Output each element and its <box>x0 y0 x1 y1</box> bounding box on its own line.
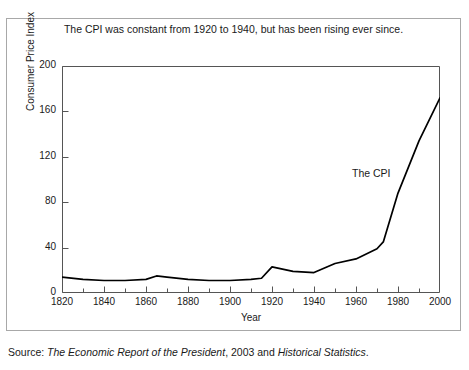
axis-frame <box>63 67 440 293</box>
source-middle: , 2003 and <box>225 346 278 358</box>
y-tick-label: 200 <box>39 59 56 70</box>
x-axis-tick-labels: 1820184018601880190019201940196019802000 <box>62 296 440 310</box>
source-title-secondary: Historical Statistics <box>278 346 366 358</box>
x-tick-label: 1940 <box>303 296 325 307</box>
source-note: Source: The Economic Report of the Presi… <box>8 346 369 358</box>
y-tick-label: 40 <box>45 241 56 252</box>
series-annotation-the-cpi: The CPI <box>352 167 391 179</box>
chart-canvas <box>62 66 440 293</box>
x-tick-label: 1920 <box>261 296 283 307</box>
x-axis-label: Year <box>62 312 440 323</box>
x-tick-label: 1980 <box>387 296 409 307</box>
figure: The CPI was constant from 1920 to 1940, … <box>0 0 469 370</box>
x-tick-label: 1860 <box>135 296 157 307</box>
x-tick-label: 1880 <box>177 296 199 307</box>
data-series-group <box>62 98 440 281</box>
y-axis-tick-labels: 04080120160200 <box>18 66 56 293</box>
x-axis-ticks <box>63 287 441 293</box>
y-tick-label: 160 <box>39 104 56 115</box>
source-prefix: Source: <box>8 346 47 358</box>
x-tick-label: 1840 <box>93 296 115 307</box>
chart-title: The CPI was constant from 1920 to 1940, … <box>6 22 461 36</box>
y-tick-label: 80 <box>45 195 56 206</box>
source-title-primary: The Economic Report of the President <box>47 346 225 358</box>
x-tick-label: 1820 <box>51 296 73 307</box>
x-tick-label: 1900 <box>219 296 241 307</box>
y-tick-label: 120 <box>39 150 56 161</box>
plot-area <box>62 66 440 293</box>
y-axis-ticks <box>63 67 69 294</box>
line-series-the-cpi <box>62 98 440 281</box>
source-suffix: . <box>366 346 369 358</box>
x-tick-label: 2000 <box>429 296 451 307</box>
plot-frame <box>63 67 440 293</box>
x-tick-label: 1960 <box>345 296 367 307</box>
